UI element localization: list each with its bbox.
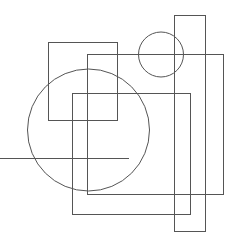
right-rect [88,55,224,195]
middle-rect [73,94,191,215]
large-circle [28,69,150,191]
diagram-canvas [0,0,234,240]
geometric-figure [0,0,234,240]
